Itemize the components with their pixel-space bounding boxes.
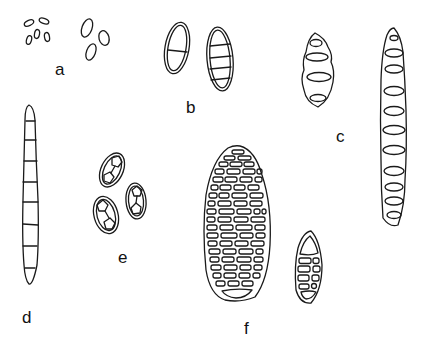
muriform-cells [207,150,266,298]
panel-f-small-spore [295,231,322,303]
panel-a-small-spores [23,17,50,45]
panel-e-spore-3 [89,194,122,237]
panel-f-large-spore [204,146,270,301]
panel-a-large-spores [79,17,111,61]
panel-d-long-spore [23,105,39,284]
label-d: d [22,308,31,327]
panel-e-spore-1 [94,149,129,191]
label-b: b [186,98,195,117]
panel-e-spore-2 [124,182,147,220]
label-a: a [55,60,65,79]
panel-b-spore-2 [204,26,235,92]
panel-b-spore-1 [161,20,194,75]
label-f: f [244,319,249,338]
label-e: e [118,248,127,267]
spore-figure: a b c [0,0,427,351]
panel-c-long-spore [381,28,407,226]
label-c: c [336,127,345,146]
panel-c-short-spore [302,33,334,107]
